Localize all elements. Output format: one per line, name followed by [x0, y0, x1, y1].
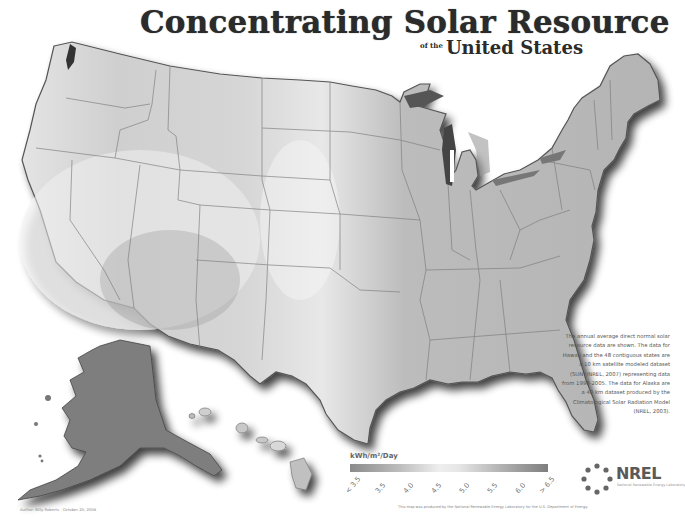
legend-tick: 5.0	[458, 481, 471, 495]
data-description-note: The annual average direct normal solar r…	[558, 332, 670, 417]
legend-tick: < 3.5	[344, 475, 362, 495]
legend-tick: > 6.5	[538, 475, 556, 495]
legend-color-bar	[350, 464, 548, 472]
legend-ticks: < 3.5 3.5 4.0 4.5 5.0 5.5 6.0 > 6.5	[342, 476, 556, 496]
credit-line: This map was produced by the National Re…	[398, 505, 588, 509]
legend-title: kWh/m²/Day	[350, 452, 398, 460]
alaska-shape	[18, 340, 222, 500]
hawaii-islands	[189, 408, 312, 490]
legend-tick: 6.0	[514, 481, 527, 495]
legend-tick: 4.5	[430, 481, 443, 495]
nrel-tagline: National Renewable Energy Laboratory	[617, 483, 685, 487]
map-subtitle: of theUnited States	[420, 37, 583, 58]
subtitle-text: United States	[446, 37, 583, 58]
author-line: Author: Billy Roberts - October 20, 2008	[20, 507, 96, 512]
nrel-logo: NREL National Renewable Energy Laborator…	[580, 462, 670, 496]
legend-tick: 5.5	[486, 481, 499, 495]
nrel-sun-icon	[580, 462, 614, 496]
legend-tick: 3.5	[374, 481, 387, 495]
legend-tick: 4.0	[402, 481, 415, 495]
subtitle-of: of the	[420, 41, 443, 50]
aleutian-islands	[34, 395, 51, 462]
nrel-wordmark: NREL	[616, 464, 661, 483]
map-title: Concentrating Solar Resource	[140, 4, 670, 40]
